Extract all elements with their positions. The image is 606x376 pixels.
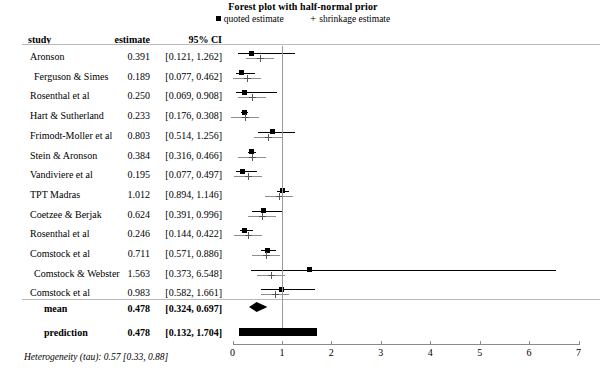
- table-cell-study: Rosenthal et al: [30, 90, 89, 101]
- confidence-interval-line: [248, 152, 255, 153]
- table-cell-study: Vandiviere et al: [30, 169, 93, 180]
- shrinkage-estimate-marker-stem: [279, 193, 280, 200]
- quoted-estimate-marker: [307, 267, 312, 272]
- table-cell-estimate: 0.384: [88, 150, 150, 161]
- shrinkage-estimate-marker: [263, 255, 270, 256]
- shrinkage-interval-line: [234, 176, 262, 177]
- x-axis-tick: [579, 341, 580, 345]
- shrinkage-estimate-marker: [249, 97, 256, 98]
- confidence-interval-line: [236, 171, 257, 172]
- table-cell-study: Comstock et al: [30, 248, 90, 259]
- quoted-estimate-marker: [242, 90, 247, 95]
- x-axis-tick-label: 2: [321, 347, 341, 358]
- confidence-interval-line: [277, 191, 289, 192]
- column-header-ci: 95% CI: [150, 34, 222, 45]
- column-header-estimate: estimate: [88, 34, 150, 45]
- table-cell-study: Comstock et al: [30, 287, 90, 298]
- shrinkage-estimate-marker: [242, 117, 249, 118]
- shrinkage-interval-line: [261, 294, 289, 295]
- x-axis-tick: [480, 341, 481, 345]
- confidence-interval-line: [261, 289, 314, 290]
- confidence-interval-line: [241, 112, 248, 113]
- quoted-estimate-marker: [240, 169, 245, 174]
- quoted-estimate-marker: [249, 149, 254, 154]
- quoted-estimate-marker: [242, 228, 247, 233]
- shrinkage-estimate-marker-stem: [266, 252, 267, 259]
- table-cell-estimate: 1.012: [88, 189, 150, 200]
- table-cell-ci: [0.121, 1.262]: [150, 51, 222, 62]
- summary-estimate-prediction: 0.478: [88, 327, 150, 338]
- table-cell-ci: [0.069, 0.908]: [150, 90, 222, 101]
- table-cell-ci: [0.571, 0.886]: [150, 248, 222, 259]
- shrinkage-interval-line: [231, 117, 259, 118]
- reference-line: [282, 46, 283, 336]
- shrinkage-estimate-marker: [245, 235, 252, 236]
- table-cell-ci: [0.176, 0.308]: [150, 110, 222, 121]
- shrinkage-estimate-marker-stem: [268, 134, 269, 141]
- table-cell-estimate: 0.246: [88, 228, 150, 239]
- chart-legend: quoted estimate +shrinkage estimate: [0, 14, 606, 24]
- shrinkage-estimate-marker: [249, 157, 256, 158]
- shrinkage-estimate-marker-stem: [275, 291, 276, 298]
- chart-title: Forest plot with half-normal prior: [0, 1, 606, 12]
- x-axis-line: [233, 344, 579, 345]
- table-cell-study: TPT Madras: [30, 189, 80, 200]
- quoted-estimate-marker: [280, 188, 285, 193]
- shrinkage-estimate-marker: [265, 137, 272, 138]
- table-cell-estimate: 0.711: [88, 248, 150, 259]
- shrinkage-interval-line: [252, 255, 280, 256]
- quoted-estimate-marker: [239, 70, 244, 75]
- confidence-interval-line: [252, 211, 282, 212]
- mean-diamond: [247, 300, 269, 314]
- x-axis-tick-label: 1: [272, 347, 292, 358]
- table-cell-ci: [0.373, 6.548]: [150, 268, 222, 279]
- legend-label-shrinkage: shrinkage estimate: [319, 14, 390, 24]
- table-cell-ci: [0.894, 1.146]: [150, 189, 222, 200]
- shrinkage-estimate-marker-stem: [252, 154, 253, 161]
- plus-marker-icon: +: [310, 14, 316, 23]
- shrinkage-estimate-marker-stem: [248, 173, 249, 180]
- quoted-estimate-marker: [242, 110, 247, 115]
- confidence-interval-line: [236, 73, 255, 74]
- summary-estimate-mean: 0.478: [88, 303, 150, 314]
- x-axis-tick: [430, 341, 431, 345]
- forest-plot-figure: Forest plot with half-normal prior quote…: [0, 0, 606, 376]
- shrinkage-estimate-marker-stem: [245, 114, 246, 121]
- x-axis-tick: [331, 341, 332, 345]
- shrinkage-estimate-marker: [268, 275, 275, 276]
- shrinkage-interval-line: [234, 235, 262, 236]
- table-cell-study: Rosenthal et al: [30, 228, 89, 239]
- confidence-interval-line: [261, 250, 277, 251]
- x-axis-tick: [529, 341, 530, 345]
- table-cell-estimate: 0.983: [88, 287, 150, 298]
- prediction-interval-bar: [239, 328, 317, 336]
- square-marker-icon: [216, 16, 221, 21]
- shrinkage-interval-line: [254, 137, 282, 138]
- table-cell-estimate: 0.803: [88, 130, 150, 141]
- shrinkage-estimate-marker-stem: [262, 213, 263, 220]
- quoted-estimate-marker: [249, 51, 254, 56]
- confidence-interval-line: [251, 270, 556, 271]
- column-header-study: study: [28, 34, 51, 45]
- table-cell-ci: [0.514, 1.256]: [150, 130, 222, 141]
- shrinkage-interval-line: [265, 196, 293, 197]
- table-cell-estimate: 1.563: [88, 268, 150, 279]
- summary-label-mean: mean: [44, 303, 67, 314]
- table-cell-estimate: 0.189: [88, 71, 150, 82]
- confidence-interval-line: [240, 230, 254, 231]
- heterogeneity-note: Heterogeneity (tau): 0.57 [0.33, 0.88]: [24, 352, 168, 362]
- shrinkage-interval-line: [257, 275, 285, 276]
- summary-ci-prediction: [0.132, 1.704]: [150, 327, 222, 338]
- shrinkage-estimate-marker: [276, 196, 283, 197]
- table-cell-ci: [0.077, 0.497]: [150, 169, 222, 180]
- summary-ci-mean: [0.324, 0.697]: [150, 303, 222, 314]
- shrinkage-estimate-marker: [245, 176, 252, 177]
- quoted-estimate-marker: [270, 129, 275, 134]
- x-axis-tick-label: 3: [371, 347, 391, 358]
- x-axis-tick-label: 7: [569, 347, 589, 358]
- shrinkage-estimate-marker: [272, 294, 279, 295]
- shrinkage-estimate-marker: [257, 58, 264, 59]
- shrinkage-estimate-marker-stem: [247, 75, 248, 82]
- x-axis-tick-label: 5: [470, 347, 490, 358]
- shrinkage-estimate-marker-stem: [248, 232, 249, 239]
